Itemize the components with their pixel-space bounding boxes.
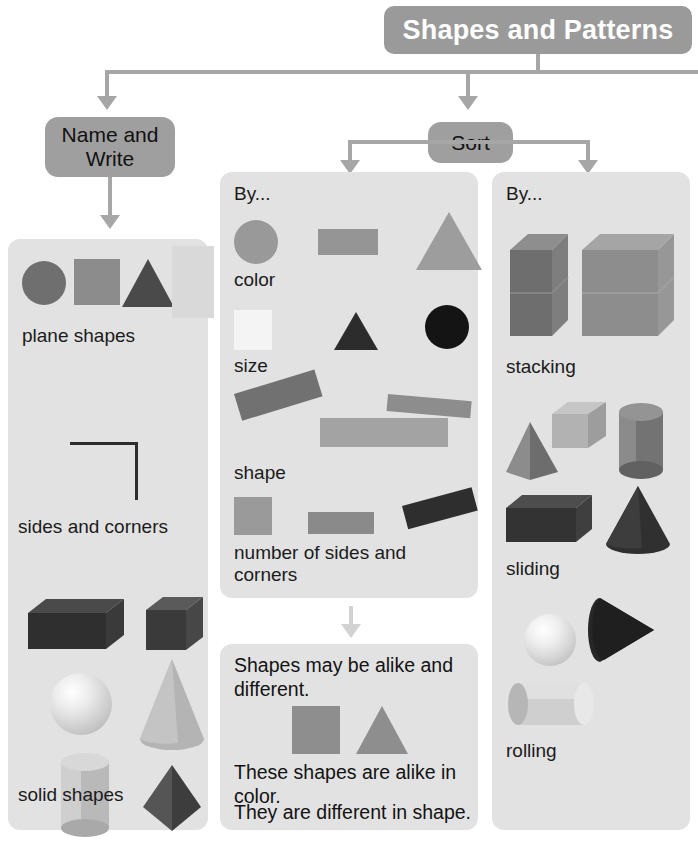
- panel-alike-and-different: Shapes may be alike and different. These…: [220, 644, 478, 830]
- node-name-and-write[interactable]: Name and Write: [45, 117, 175, 177]
- rolling-cone: [580, 594, 656, 666]
- label-solid-shapes: solid shapes: [18, 784, 124, 806]
- sortby-color-circle: [234, 220, 278, 264]
- sortby-sides-rotated-rectangle: [402, 487, 478, 529]
- label-sides-and-corners: sides and corners: [18, 516, 168, 538]
- label-plane-shapes: plane shapes: [22, 325, 135, 347]
- rolling-sphere: [524, 614, 576, 666]
- sortby-color-rectangle: [318, 229, 378, 255]
- connector-name-write-down: [108, 177, 112, 217]
- label-rolling: rolling: [506, 740, 557, 762]
- alike-line-3: They are different in shape.: [234, 801, 478, 825]
- sliding-cylinder: [616, 402, 666, 480]
- label-sliding: sliding: [506, 558, 560, 580]
- stacking-rectangular-prism: [508, 228, 570, 340]
- sortby-size-triangle: [334, 312, 378, 350]
- sliding-cone: [602, 484, 674, 556]
- page-title: Shapes and Patterns: [403, 15, 674, 46]
- label-sortby-color: color: [234, 269, 275, 291]
- node-name-and-write-label: Name and Write: [45, 123, 175, 170]
- diagram-title-banner: Shapes and Patterns: [384, 6, 692, 54]
- connector-horizontal-bus: [105, 70, 698, 74]
- arrow-to-alike-panel: [341, 624, 361, 638]
- label-sortby-sides-corners: number of sides and corners: [234, 542, 464, 587]
- sortby-size-circle: [425, 305, 469, 349]
- connector-drop-left: [105, 70, 109, 98]
- sortby-sides-rectangle: [308, 512, 374, 534]
- solid-cube: [146, 596, 204, 654]
- heading-sort-by: By...: [234, 183, 271, 205]
- solid-sphere: [50, 673, 112, 735]
- stacking-cube: [580, 228, 676, 340]
- alike-square: [292, 706, 340, 754]
- corner-mark-vertical: [135, 442, 138, 500]
- arrow-to-name-and-write: [97, 96, 117, 110]
- plane-shape-rectangle: [172, 246, 214, 318]
- sortby-sides-square: [234, 497, 272, 535]
- solid-rectangular-prism: [28, 597, 126, 657]
- connector-sort-bus: [348, 140, 590, 144]
- alike-line-1: Shapes may be alike and different.: [234, 654, 466, 702]
- rolling-cylinder: [508, 680, 598, 730]
- arrow-to-sort: [458, 96, 478, 110]
- corner-mark-horizontal: [70, 442, 138, 445]
- panel-plane-and-solid-shapes: plane shapes sides and corners solid sha…: [8, 239, 208, 830]
- sortby-shape-thin-rectangle: [387, 394, 472, 418]
- label-sortby-shape: shape: [234, 462, 286, 484]
- label-sortby-size: size: [234, 355, 268, 377]
- panel-move-by: By... stacking sliding: [492, 172, 690, 830]
- heading-move-by: By...: [506, 183, 543, 205]
- plane-shape-circle: [22, 261, 66, 305]
- plane-shape-square: [74, 259, 120, 305]
- panel-sort-by: By... color size shape number of sides a…: [220, 172, 478, 598]
- sortby-shape-wide-rectangle: [320, 418, 448, 447]
- sortby-size-square: [234, 310, 272, 350]
- connector-banner-stem: [536, 54, 540, 71]
- solid-pyramid: [141, 763, 203, 833]
- connector-drop-middle: [466, 70, 470, 98]
- label-stacking: stacking: [506, 356, 576, 378]
- sliding-pyramid: [504, 420, 560, 482]
- sliding-rectangular-prism: [504, 492, 594, 548]
- alike-triangle: [356, 706, 408, 754]
- plane-shape-triangle: [122, 259, 174, 307]
- solid-cone: [138, 659, 206, 751]
- arrow-to-plane-solid-panel: [100, 215, 120, 229]
- sortby-color-triangle: [416, 212, 482, 270]
